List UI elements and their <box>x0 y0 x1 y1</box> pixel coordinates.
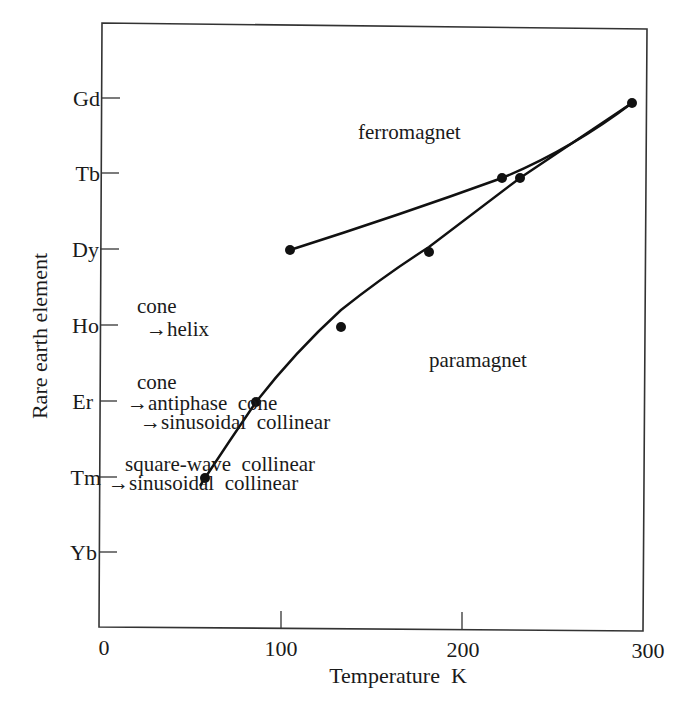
ferromagnet-label: ferromagnet <box>358 120 461 144</box>
point-dy-curie <box>285 245 295 255</box>
paramagnet-label: paramagnet <box>429 348 527 372</box>
point-ho <box>336 322 346 332</box>
ho-annotation-line2: →helix <box>146 317 209 341</box>
x-tick-label-200: 200 <box>447 637 480 662</box>
curie-curve <box>290 103 632 250</box>
x-axis <box>281 611 462 630</box>
tm-annotation-line2: →sinusoidal collinear <box>108 471 298 495</box>
x-tick-label-300: 300 <box>632 638 665 663</box>
y-tick-label-dy: Dy <box>72 237 99 262</box>
point-dy-neel <box>424 247 434 257</box>
x-tick-label-0: 0 <box>99 635 110 660</box>
er-annotation-line3: →sinusoidal collinear <box>140 410 330 434</box>
y-tick-labels: Gd Tb Dy Ho Er Tm Yb <box>70 86 101 565</box>
x-axis-label: Temperature K <box>329 663 467 688</box>
y-tick-label-gd: Gd <box>73 86 100 111</box>
y-tick-label-tm: Tm <box>70 465 101 490</box>
phase-diagram-chart: 0 100 200 300 Temperature K Gd Tb Dy Ho … <box>0 0 687 710</box>
ho-annotation: cone →helix <box>137 294 209 341</box>
y-axis-label: Rare earth element <box>27 253 52 419</box>
x-tick-labels: 0 100 200 300 <box>99 635 665 663</box>
er-annotation: cone →antiphase cone →sinusoidal colline… <box>127 370 330 434</box>
y-tick-label-tb: Tb <box>76 161 100 186</box>
point-tb-neel <box>515 173 525 183</box>
y-tick-label-er: Er <box>72 389 93 414</box>
ho-annotation-line1: cone <box>137 294 177 318</box>
y-tick-label-ho: Ho <box>72 313 99 338</box>
y-tick-label-yb: Yb <box>70 540 97 565</box>
tm-annotation: square-wave collinear →sinusoidal collin… <box>108 452 315 495</box>
x-tick-label-100: 100 <box>265 636 298 661</box>
point-tb-curie <box>497 173 507 183</box>
point-gd <box>627 98 637 108</box>
